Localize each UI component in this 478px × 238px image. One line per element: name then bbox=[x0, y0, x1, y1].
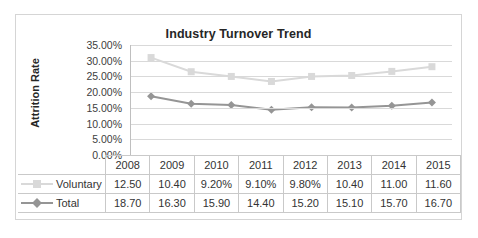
data-point-voluntary bbox=[268, 78, 275, 85]
plot-area bbox=[130, 45, 452, 155]
y-tick-label: 20.00% bbox=[54, 87, 122, 98]
table-cell: 12.50 bbox=[106, 175, 150, 194]
legend-label-total: Total bbox=[54, 197, 79, 209]
table-corner-cell bbox=[18, 156, 106, 175]
y-tick-label: 25.00% bbox=[54, 71, 122, 82]
y-tick-label: 15.00% bbox=[54, 103, 122, 114]
table-header-year: 2014 bbox=[372, 156, 416, 175]
legend-label-voluntary: Voluntary bbox=[54, 178, 102, 190]
data-point-voluntary bbox=[428, 63, 435, 70]
table-cell: 9.10% bbox=[239, 175, 283, 194]
data-point-total bbox=[147, 92, 155, 100]
table-cell: 15.20 bbox=[283, 194, 327, 213]
table-header-year: 2008 bbox=[106, 156, 150, 175]
table-cell: 11.60 bbox=[416, 175, 460, 194]
table-cell: 9.20% bbox=[194, 175, 238, 194]
y-tick-label: 35.00% bbox=[54, 40, 122, 51]
data-point-total bbox=[428, 99, 436, 107]
table-header-year: 2015 bbox=[416, 156, 460, 175]
gridline bbox=[131, 139, 452, 140]
table-cell: 14.40 bbox=[239, 194, 283, 213]
data-point-total bbox=[187, 100, 195, 108]
table-cell: 9.80% bbox=[283, 175, 327, 194]
table-cell: 10.40 bbox=[327, 175, 371, 194]
gridline bbox=[131, 45, 452, 46]
table-header-year: 2012 bbox=[283, 156, 327, 175]
gridline bbox=[131, 61, 452, 62]
gridline bbox=[131, 76, 452, 77]
gridline bbox=[131, 124, 452, 125]
table-cell: 16.30 bbox=[150, 194, 194, 213]
y-axis-tick-labels: 0.00%5.00%10.00%15.00%20.00%25.00%30.00%… bbox=[54, 45, 122, 155]
data-point-voluntary bbox=[188, 68, 195, 75]
table-cell: 16.70 bbox=[416, 194, 460, 213]
gridline bbox=[131, 108, 452, 109]
table-row-years: 20082009201020112012201320142015 bbox=[18, 156, 461, 175]
table-cell: 15.70 bbox=[372, 194, 416, 213]
chart-frame: Industry Turnover Trend Attrition Rate 0… bbox=[15, 14, 462, 220]
legend-cell-voluntary: Voluntary bbox=[18, 175, 106, 194]
data-point-voluntary bbox=[388, 68, 395, 75]
gridline bbox=[131, 92, 452, 93]
table-header-year: 2011 bbox=[239, 156, 283, 175]
table-header-year: 2010 bbox=[194, 156, 238, 175]
y-axis-title: Attrition Rate bbox=[29, 38, 41, 148]
table-header-year: 2009 bbox=[150, 156, 194, 175]
table-row-total: Total 18.7016.3015.9014.4015.2015.1015.7… bbox=[18, 194, 461, 213]
table-cell: 15.10 bbox=[327, 194, 371, 213]
data-table: 20082009201020112012201320142015 Volunta… bbox=[18, 155, 461, 213]
table-cell: 11.00 bbox=[372, 175, 416, 194]
legend-key-voluntary-icon bbox=[20, 177, 54, 191]
table-cell: 10.40 bbox=[150, 175, 194, 194]
table-row-voluntary: Voluntary 12.5010.409.20%9.10%9.80%10.40… bbox=[18, 175, 461, 194]
y-tick-label: 10.00% bbox=[54, 118, 122, 129]
y-tick-label: 5.00% bbox=[54, 134, 122, 145]
y-tick-label: 30.00% bbox=[54, 55, 122, 66]
table-header-year: 2013 bbox=[327, 156, 371, 175]
table-cell: 18.70 bbox=[106, 194, 150, 213]
legend-key-total-icon bbox=[20, 196, 54, 210]
table-cell: 15.90 bbox=[194, 194, 238, 213]
legend-cell-total: Total bbox=[18, 194, 106, 213]
